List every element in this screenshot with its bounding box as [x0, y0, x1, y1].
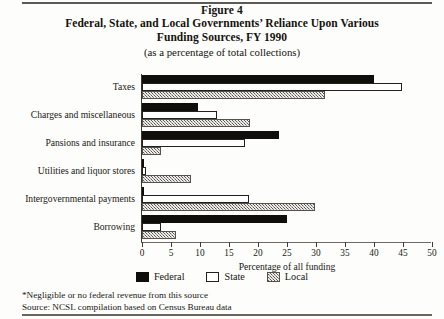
legend-swatch-icon — [206, 272, 219, 282]
tick-mark — [287, 242, 288, 247]
category-label: Taxes — [113, 82, 135, 92]
bar-local — [142, 147, 161, 154]
figure-title-line-1: Federal, State, and Local Governments’ R… — [0, 17, 444, 31]
legend-item-local: Local — [267, 271, 308, 282]
tick-label: 20 — [245, 248, 271, 258]
legend-item-federal: Federal — [136, 271, 185, 282]
bar-federal — [142, 131, 279, 138]
bar-local — [142, 231, 176, 238]
chart-plot-area: TaxesCharges and miscellaneousPansions a… — [0, 74, 444, 244]
bar-federal — [142, 159, 144, 166]
figure-title-line-2: Funding Sources, FY 1990 — [0, 31, 444, 45]
category-label: Pansions and insurance — [45, 138, 135, 148]
bar-federal — [142, 215, 287, 222]
bar-local — [142, 119, 250, 126]
bar-state — [142, 195, 249, 202]
tick-label: 15 — [216, 248, 242, 258]
tick-label: 50 — [419, 248, 444, 258]
category-label: Utilities and liquor stores — [38, 166, 135, 176]
category-label: Intergovernmental payments — [25, 194, 135, 204]
figure-notes: *Negligible or no federal revenue from t… — [22, 290, 422, 313]
category-axis-line — [141, 242, 431, 243]
tick-mark — [258, 242, 259, 247]
category-label: Borrowing — [93, 222, 135, 232]
bar-state — [142, 139, 245, 146]
tick-mark — [432, 242, 433, 247]
tick-label: 10 — [187, 248, 213, 258]
bar-series-group — [142, 74, 442, 242]
tick-mark — [345, 242, 346, 247]
figure-heading: Figure 4 Federal, State, and Local Gover… — [0, 4, 444, 60]
tick-mark — [200, 242, 201, 247]
legend-swatch-icon — [136, 272, 149, 282]
tick-mark — [142, 242, 143, 247]
chart-legend: FederalStateLocal — [0, 271, 444, 282]
legend-label: Local — [285, 271, 308, 282]
tick-label: 35 — [332, 248, 358, 258]
tick-label: 40 — [361, 248, 387, 258]
legend-label: Federal — [154, 271, 185, 282]
tick-mark — [229, 242, 230, 247]
bar-state — [142, 223, 161, 230]
footnote-negligible: *Negligible or no federal revenue from t… — [22, 290, 422, 302]
tick-label: 0 — [129, 248, 155, 258]
tick-label: 45 — [390, 248, 416, 258]
bar-federal — [142, 103, 198, 110]
source-note: Source: NCSL compilation based on Census… — [22, 302, 422, 314]
tick-label: 25 — [274, 248, 300, 258]
figure-subtitle: (as a percentage of total collections) — [0, 45, 444, 60]
tick-mark — [171, 242, 172, 247]
bar-federal — [142, 75, 374, 82]
legend-swatch-icon — [267, 272, 280, 282]
bar-federal — [142, 187, 144, 194]
bar-state — [142, 167, 146, 174]
bar-local — [142, 203, 315, 210]
tick-label: 5 — [158, 248, 184, 258]
figure-number: Figure 4 — [0, 4, 444, 17]
tick-mark — [316, 242, 317, 247]
category-axis-labels: TaxesCharges and miscellaneousPansions a… — [0, 74, 139, 242]
page-rule-bottom — [22, 314, 432, 316]
bar-state — [142, 83, 402, 90]
bar-local — [142, 175, 191, 182]
tick-mark — [403, 242, 404, 247]
figure-page: { "figure": { "label": "Figure 4", "titl… — [0, 0, 444, 319]
bar-state — [142, 111, 217, 118]
tick-label: 30 — [303, 248, 329, 258]
tick-mark — [374, 242, 375, 247]
legend-label: State — [224, 271, 244, 282]
category-label: Charges and miscellaneous — [31, 110, 135, 120]
bar-local — [142, 91, 325, 98]
legend-item-state: State — [206, 271, 244, 282]
